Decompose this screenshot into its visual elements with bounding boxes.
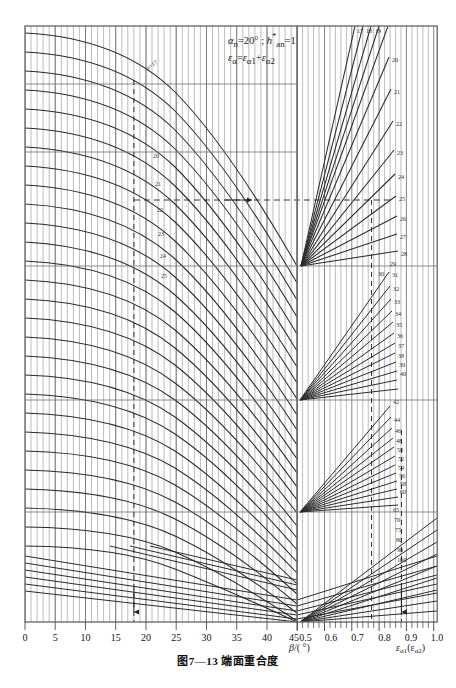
formula-line-alpha: αn=20° ; h*an=1 [228,30,296,50]
nomogram-chart: 17 18 19 20 21 22 23 24 25 26 27 28 29 3… [0,0,456,648]
svg-text:22: 22 [157,207,163,213]
svg-text:18: 18 [366,27,372,34]
svg-text:32: 32 [393,285,399,292]
svg-text:21: 21 [155,181,161,187]
svg-text:24: 24 [398,173,404,180]
svg-text:20: 20 [141,632,151,643]
figure-caption: 图7—13 端面重合度 [0,652,456,668]
svg-text:10: 10 [81,632,91,643]
svg-text:50: 50 [397,446,403,453]
svg-text:35: 35 [396,321,402,328]
svg-text:90: 90 [397,546,403,553]
svg-text:46: 46 [395,427,401,434]
svg-text:5: 5 [53,632,58,643]
svg-text:33: 33 [394,298,400,305]
h-an-value: =1 [285,35,296,46]
svg-text:56: 56 [399,472,405,479]
svg-text:34: 34 [395,310,401,317]
alpha-n-value: =20° [238,35,259,46]
svg-text:58: 58 [400,480,406,487]
svg-text:1.0: 1.0 [431,632,444,643]
svg-text:70: 70 [394,516,400,523]
svg-text:23: 23 [397,149,403,156]
svg-text:24: 24 [160,253,166,259]
formula-annotation: αn=20° ; h*an=1 εα=εα1+εα2 [228,30,296,68]
svg-text:22: 22 [396,120,402,127]
svg-text:60: 60 [400,488,406,495]
svg-text:42: 42 [393,398,399,405]
svg-text:20: 20 [392,56,398,63]
svg-text:0: 0 [23,632,28,643]
svg-text:0.6: 0.6 [325,632,338,643]
eps-a2-subscript: α2 [266,56,275,66]
formula-separator: ; [261,35,264,46]
h-an-subscript: an [276,39,284,49]
formula-line-epsilon: εα=εα1+εα2 [228,50,296,68]
svg-text:0.7: 0.7 [351,632,364,643]
svg-text:23: 23 [158,231,164,237]
svg-text:25: 25 [161,273,167,279]
figure-root: 17 18 19 20 21 22 23 24 25 26 27 28 29 3… [0,0,456,688]
svg-text:25: 25 [399,195,405,202]
eps-a1-subscript: α1 [247,56,256,66]
svg-text:15: 15 [111,632,121,643]
svg-text:40: 40 [400,370,406,377]
svg-text:21: 21 [394,88,400,95]
svg-text:65: 65 [393,506,399,513]
svg-text:40: 40 [262,632,272,643]
svg-text:39: 39 [399,361,405,368]
svg-text:36: 36 [397,332,403,339]
svg-text:37: 37 [398,342,404,349]
svg-text:30: 30 [202,632,212,643]
svg-text:25: 25 [171,632,181,643]
svg-text:28: 28 [401,250,407,257]
svg-text:29: 29 [390,260,396,267]
svg-text:27: 27 [400,233,406,240]
svg-text:0.8: 0.8 [378,632,391,643]
svg-text:35: 35 [232,632,242,643]
nomogram-svg: 17 18 19 20 21 22 23 24 25 26 27 28 29 3… [0,0,456,648]
svg-text:38: 38 [398,352,404,359]
svg-text:17: 17 [357,27,363,34]
svg-text:31: 31 [392,271,398,278]
svg-text:20: 20 [153,153,159,159]
svg-text:19: 19 [375,27,381,34]
svg-text:30: 30 [378,270,384,277]
svg-text:75: 75 [395,526,401,533]
svg-text:26: 26 [400,215,406,222]
svg-text:44: 44 [394,416,400,423]
